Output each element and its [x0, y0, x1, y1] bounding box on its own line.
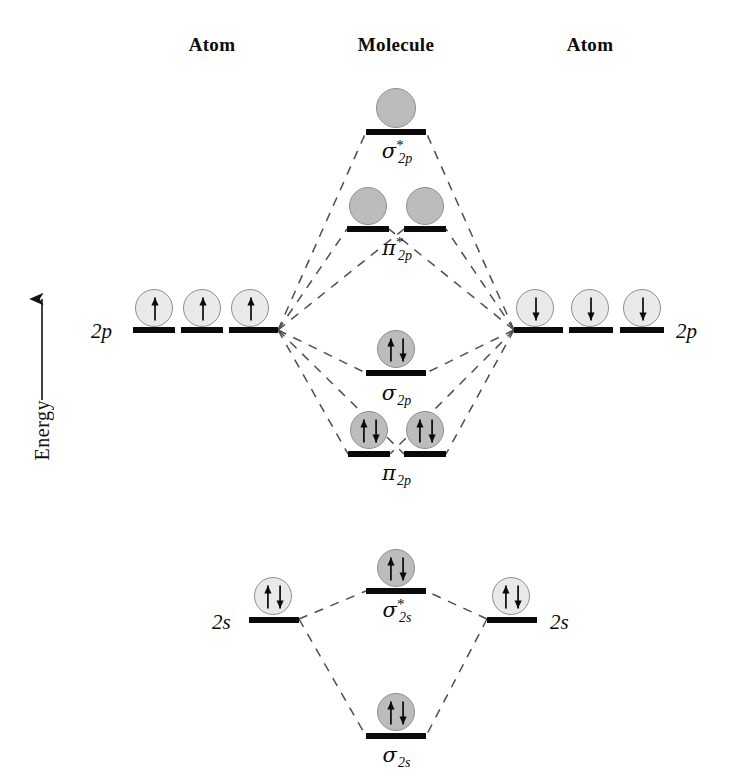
mo-label-subscript: 2p	[398, 152, 412, 166]
orbital-circle-filled-sigma-star-2s	[377, 549, 415, 587]
energy-level-bar-sigma-star-2p	[366, 129, 426, 135]
spin-down-arrow	[587, 298, 594, 321]
energy-level-bar-sigma-2p	[366, 370, 426, 376]
correlation-line-11	[446, 330, 514, 454]
mo-label-sigma-2s: σ2s	[383, 745, 410, 766]
energy-level-bar-atom-right-2s	[487, 617, 537, 623]
mo-label-subscript: 2s	[399, 611, 411, 625]
correlation-line-4	[278, 330, 366, 373]
spin-down-arrow	[399, 558, 406, 581]
spin-up-arrow	[199, 298, 206, 321]
spin-up-arrow	[247, 298, 254, 321]
spin-down-arrow	[532, 298, 539, 321]
energy-axis-arrow	[28, 288, 58, 408]
orbital-circle-filled-atom-right-2p-3	[623, 289, 661, 327]
orbital-circle-filled-sigma-2s	[377, 693, 415, 731]
column-header-molecule-1: Molecule	[358, 34, 434, 56]
spin-down-arrow	[399, 339, 406, 362]
energy-level-bar-sigma-2s	[366, 733, 426, 739]
column-header-atom-2: Atom	[567, 34, 614, 56]
correlation-line-15	[426, 591, 487, 619]
spin-up-arrow	[387, 558, 394, 581]
level-label-atom-right-2s: 2s	[550, 610, 569, 635]
energy-axis-label: Energy	[31, 400, 54, 460]
spin-down-arrow	[399, 702, 406, 725]
mo-label-glyph: π	[382, 461, 396, 485]
mo-label-subscript: 2p	[397, 394, 411, 408]
orbital-circle-filled-atom-right-2s	[492, 577, 530, 615]
orbital-circle-empty-sigma-star-2p	[376, 88, 416, 128]
orbital-circle-filled-atom-right-2p-1	[516, 289, 554, 327]
mo-diagram-canvas: Energy AtomMoleculeAtom σ*2pπ*2p2p2pσ2pπ…	[0, 0, 750, 776]
mo-label-sigma-2p: σ2p	[382, 383, 410, 404]
mo-label-subscript: 2p	[397, 474, 411, 488]
mo-label-sigma-star-2p: σ*2p	[382, 141, 410, 162]
correlation-line-2	[278, 229, 347, 330]
spin-down-arrow	[514, 586, 521, 609]
orbital-circle-empty-pi-star-2p-2	[406, 187, 444, 225]
orbital-circle-filled-atom-right-2p-2	[571, 289, 609, 327]
mo-label-pi-star-2p: π*2p	[382, 238, 410, 259]
orbital-circle-empty-pi-star-2p-1	[349, 187, 387, 225]
energy-level-bar-sigma-star-2s	[366, 588, 426, 594]
spin-down-arrow	[372, 420, 379, 443]
spin-down-arrow	[276, 586, 283, 609]
mo-label-glyph: σ	[382, 139, 396, 163]
level-label-atom-right-2p: 2p	[676, 319, 697, 344]
column-header-atom-0: Atom	[189, 34, 236, 56]
orbital-circle-filled-atom-left-2s	[254, 577, 292, 615]
energy-level-bar-atom-left-2s	[249, 617, 299, 623]
spin-up-arrow	[387, 702, 394, 725]
mo-label-subscript: 2s	[398, 756, 410, 770]
spin-up-arrow	[360, 420, 367, 443]
correlation-line-16	[426, 619, 487, 736]
level-label-atom-left-2p: 2p	[91, 319, 112, 344]
spin-down-arrow	[639, 298, 646, 321]
correlation-line-5	[278, 330, 348, 454]
mo-label-glyph: σ	[382, 381, 396, 405]
orbital-circle-filled-atom-left-2p-2	[183, 289, 221, 327]
correlation-line-8	[446, 229, 514, 330]
energy-level-bar-pi-2p-2	[404, 451, 446, 457]
mo-label-pi-2p: π2p	[382, 463, 410, 484]
mo-label-glyph: π	[382, 236, 396, 260]
orbital-circle-filled-atom-left-2p-3	[231, 289, 269, 327]
spin-up-arrow	[264, 586, 271, 609]
correlation-line-10	[426, 330, 514, 373]
mo-label-subscript: 2p	[398, 249, 412, 263]
orbital-circle-filled-pi-2p-1	[350, 411, 388, 449]
energy-level-bar-pi-star-2p-1	[347, 226, 389, 232]
level-label-atom-left-2s: 2s	[212, 610, 231, 635]
mo-label-glyph: σ	[383, 743, 397, 767]
energy-level-bar-pi-2p-1	[348, 451, 390, 457]
correlation-line-13	[299, 591, 366, 619]
mo-label-glyph: σ	[383, 598, 397, 622]
orbital-circle-filled-sigma-2p	[377, 330, 415, 368]
spin-up-arrow	[387, 339, 394, 362]
correlation-lines-layer	[0, 0, 750, 776]
energy-level-bar-pi-star-2p-2	[404, 226, 446, 232]
spin-up-arrow	[416, 420, 423, 443]
spin-up-arrow	[151, 298, 158, 321]
orbital-circle-filled-pi-2p-2	[406, 411, 444, 449]
mo-label-sigma-star-2s: σ*2s	[383, 600, 410, 621]
correlation-line-14	[299, 619, 366, 736]
spin-up-arrow	[502, 586, 509, 609]
orbital-circle-filled-atom-left-2p-1	[135, 289, 173, 327]
spin-down-arrow	[428, 420, 435, 443]
